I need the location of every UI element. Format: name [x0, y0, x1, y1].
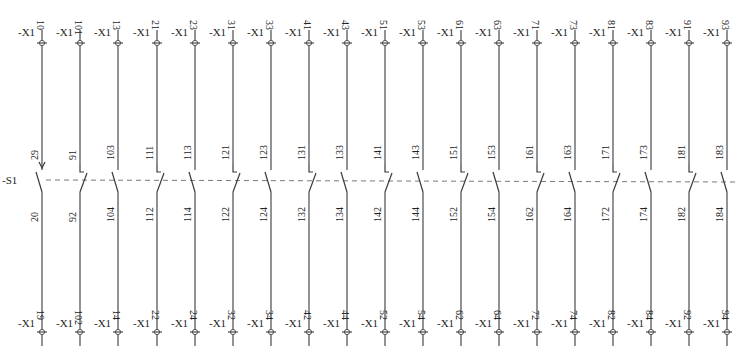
nc-contact-blade [80, 173, 87, 192]
terminal-number-bottom: 19 [35, 310, 46, 320]
contact-pin-bottom: 112 [144, 207, 155, 222]
contact-pin-top: 151 [448, 145, 459, 160]
contact-pin-top: 153 [486, 145, 497, 160]
nc-hook [537, 164, 541, 172]
contact-column: -X171-X172161162 [513, 20, 544, 346]
no-contact-blade [417, 172, 423, 192]
terminal-label-top: -X1 [133, 26, 150, 38]
nc-hook [233, 164, 237, 172]
contact-column: -X113-X114103104 [94, 20, 123, 346]
terminal-number-bottom: 34 [264, 310, 275, 320]
contact-pin-top: 183 [714, 145, 725, 160]
terminal-number-top: 101 [73, 20, 84, 35]
terminal-label-bottom: -X1 [209, 317, 226, 329]
nc-hook [689, 164, 693, 172]
contact-pin-top: 161 [524, 145, 535, 160]
terminal-number-bottom: 42 [302, 310, 313, 320]
switch-contact-schematic: -S1 -X110-X1192920-X1101-X11029192-X113-… [0, 0, 744, 359]
contact-pin-top: 121 [220, 145, 231, 160]
nc-hook [385, 164, 389, 172]
contact-column: -X163-X164153154 [475, 20, 504, 346]
contact-column: -X133-X134123124 [247, 20, 276, 346]
nc-contact-blade [537, 173, 544, 192]
terminal-label-top: -X1 [323, 26, 340, 38]
contact-pin-top: 123 [258, 145, 269, 160]
terminal-label-top: -X1 [513, 26, 530, 38]
contact-column: -X1101-X11029192 [56, 20, 87, 346]
terminal-number-top: 31 [226, 20, 237, 30]
terminal-label-top: -X1 [589, 26, 606, 38]
nc-hook [80, 164, 84, 172]
terminal-label-bottom: -X1 [171, 317, 188, 329]
terminal-number-top: 63 [492, 20, 503, 30]
terminal-number-top: 93 [720, 20, 731, 30]
terminal-number-top: 41 [302, 20, 313, 30]
no-contact-blade [341, 172, 347, 192]
nc-contact-blade [385, 173, 392, 192]
contact-column: -X193-X194183184 [703, 20, 732, 346]
terminal-number-top: 53 [416, 20, 427, 30]
contact-pin-bottom: 162 [524, 207, 535, 222]
terminal-number-bottom: 44 [340, 310, 351, 320]
terminal-number-bottom: 52 [378, 310, 389, 320]
contact-column: -X181-X182171172 [589, 20, 620, 346]
no-contact-blade [265, 172, 271, 192]
contact-pin-bottom: 152 [448, 207, 459, 222]
contact-column: -X143-X144133134 [323, 20, 352, 346]
contact-pin-top: 111 [144, 146, 155, 160]
terminal-label-bottom: -X1 [285, 317, 302, 329]
contact-pin-bottom: 164 [562, 207, 573, 222]
nc-contact-blade [461, 173, 468, 192]
terminal-number-bottom: 54 [416, 310, 427, 320]
terminal-number-bottom: 62 [454, 310, 465, 320]
terminal-number-top: 33 [264, 20, 275, 30]
contact-columns: -X110-X1192920-X1101-X11029192-X113-X114… [18, 20, 732, 346]
terminal-number-bottom: 14 [111, 310, 122, 320]
terminal-label-bottom: -X1 [361, 317, 378, 329]
nc-hook [309, 164, 313, 172]
nc-hook [461, 164, 465, 172]
contact-column: -X153-X154143144 [399, 20, 428, 346]
contact-pin-bottom: 104 [105, 207, 116, 222]
terminal-label-bottom: -X1 [475, 317, 492, 329]
contact-pin-bottom: 144 [410, 207, 421, 222]
terminal-label-bottom: -X1 [247, 317, 264, 329]
contact-column: -X183-X184173174 [627, 20, 656, 346]
terminal-label-top: -X1 [475, 26, 492, 38]
nc-contact-blade [689, 173, 696, 192]
terminal-number-bottom: 84 [644, 310, 655, 320]
terminal-number-top: 91 [682, 20, 693, 30]
terminal-label-bottom: -X1 [551, 317, 568, 329]
terminal-label-top: -X1 [437, 26, 454, 38]
contact-pin-bottom: 124 [258, 207, 269, 222]
contact-pin-top: 91 [67, 150, 78, 160]
terminal-label-top: -X1 [94, 26, 111, 38]
contact-pin-top: 173 [638, 145, 649, 160]
contact-pin-top: 143 [410, 145, 421, 160]
contact-pin-bottom: 154 [486, 207, 497, 222]
terminal-number-top: 21 [150, 20, 161, 30]
no-contact-blade [189, 172, 195, 192]
terminal-number-top: 51 [378, 20, 389, 30]
terminal-number-bottom: 24 [188, 310, 199, 320]
terminal-number-bottom: 94 [720, 310, 731, 320]
contact-column: -X110-X1192920 [18, 20, 47, 346]
terminal-number-top: 73 [568, 20, 579, 30]
terminal-number-bottom: 74 [568, 310, 579, 320]
nc-contact-blade [309, 173, 316, 192]
terminal-label-top: -X1 [361, 26, 378, 38]
terminal-label-top: -X1 [703, 26, 720, 38]
terminal-label-top: -X1 [627, 26, 644, 38]
nc-contact-blade [233, 173, 240, 192]
terminal-label-top: -X1 [665, 26, 682, 38]
contact-pin-top: 131 [296, 145, 307, 160]
terminal-number-top: 71 [530, 20, 541, 30]
contact-pin-bottom: 132 [296, 207, 307, 222]
nc-contact-blade [157, 173, 164, 192]
terminal-number-top: 13 [111, 20, 122, 30]
terminal-label-top: -X1 [56, 26, 73, 38]
contact-column: -X131-X132121122 [209, 20, 240, 346]
terminal-number-bottom: 72 [530, 310, 541, 320]
contact-pin-top: 103 [105, 145, 116, 160]
contact-column: -X141-X142131132 [285, 20, 316, 346]
